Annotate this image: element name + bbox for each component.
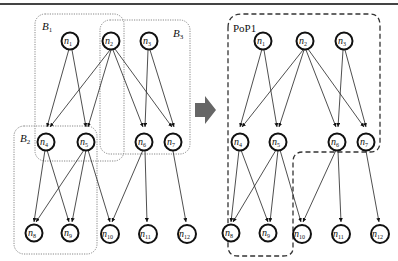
left-node-n1: n1 xyxy=(62,33,79,50)
right-node-n6: n6 xyxy=(329,134,346,151)
right-diagram: PoP1 n1 n2 n3 n4 n5 n6 n7 n8 n9 n10 n11 … xyxy=(223,14,390,256)
right-node-n2: n2 xyxy=(297,33,314,50)
left-node-n7: n7 xyxy=(165,134,182,151)
block-b3-label: B3 xyxy=(173,27,184,41)
right-node-n9: n9 xyxy=(260,225,277,242)
right-node-n7: n7 xyxy=(358,134,375,151)
network-diagram: B1 B3 B2 n1 n2 n3 n4 n5 n6 n7 n8 n9 n10 … xyxy=(0,0,398,261)
left-node-n9: n9 xyxy=(62,225,79,242)
left-node-n11: n11 xyxy=(139,225,157,243)
right-node-n10: n10 xyxy=(293,225,311,243)
block-b2-label: B2 xyxy=(20,132,31,146)
right-node-n8: n8 xyxy=(223,225,240,242)
left-node-n6: n6 xyxy=(136,134,153,151)
left-node-n2: n2 xyxy=(103,33,120,50)
right-node-n5: n5 xyxy=(270,134,287,151)
left-node-n4: n4 xyxy=(38,134,55,151)
right-arrow-icon xyxy=(195,96,216,124)
left-node-n5: n5 xyxy=(78,134,95,151)
right-node-n3: n3 xyxy=(336,33,353,50)
right-node-n4: n4 xyxy=(232,134,249,151)
left-node-n3: n3 xyxy=(141,33,158,50)
right-node-n11: n11 xyxy=(332,225,350,243)
left-diagram: B1 B3 B2 n1 n2 n3 n4 n5 n6 n7 n8 n9 n10 … xyxy=(14,14,196,254)
left-node-n12: n12 xyxy=(178,225,196,243)
block-b1-label: B1 xyxy=(42,20,53,34)
pop1-label: PoP1 xyxy=(233,22,256,34)
right-node-n1: n1 xyxy=(255,33,272,50)
left-node-n8: n8 xyxy=(26,225,43,242)
left-node-n10: n10 xyxy=(101,225,119,243)
right-node-n12: n12 xyxy=(371,225,389,243)
